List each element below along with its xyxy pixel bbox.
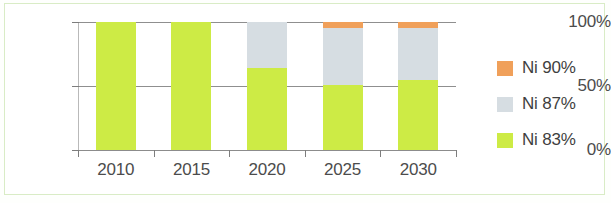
x-tick-2020: [229, 150, 230, 157]
legend-label-ni-90: Ni 90%: [522, 58, 576, 78]
legend-item-ni-83[interactable]: Ni 83%: [497, 122, 607, 158]
x-tick-2010: [78, 150, 79, 157]
x-tick-2015: [154, 150, 155, 157]
x-axis-label-2030: 2030: [380, 160, 456, 180]
legend-item-ni-87[interactable]: Ni 87%: [497, 86, 607, 122]
x-tick-2030: [380, 150, 381, 157]
legend-label-ni-87: Ni 87%: [522, 94, 576, 114]
bar-2020: [247, 22, 287, 150]
x-axis-label-2025: 2025: [305, 160, 381, 180]
bar-2010: [96, 22, 136, 150]
y-tick-50: [72, 86, 79, 87]
x-axis-line: [78, 150, 456, 151]
bar-segment-2025-ni-83: [323, 85, 363, 150]
bar-2030: [398, 22, 438, 150]
bar-segment-2025-ni-87: [323, 28, 363, 84]
x-axis-label-2010: 2010: [78, 160, 154, 180]
bar-segment-2010-ni-83: [96, 22, 136, 150]
chart-legend: Ni 90% Ni 87% Ni 83%: [497, 50, 607, 158]
legend-swatch-ni-90: [497, 61, 513, 76]
legend-swatch-ni-87: [497, 97, 513, 112]
legend-swatch-ni-83: [497, 133, 513, 148]
chart-screenshot: 100% 50% 0% 2010 2015 2020 2025 2030 Ni …: [0, 0, 611, 203]
x-axis-label-2015: 2015: [153, 160, 229, 180]
bar-2025: [323, 22, 363, 150]
legend-item-ni-90[interactable]: Ni 90%: [497, 50, 607, 86]
x-axis-label-2020: 2020: [229, 160, 305, 180]
bar-segment-2030-ni-90: [398, 22, 438, 28]
bar-segment-2015-ni-83: [171, 22, 211, 150]
x-tick-end: [456, 150, 457, 157]
bar-segment-2025-ni-90: [323, 22, 363, 28]
bar-segment-2020-ni-87: [247, 22, 287, 68]
y-tick-100: [72, 22, 79, 23]
bar-segment-2030-ni-87: [398, 28, 438, 79]
x-tick-2025: [305, 150, 306, 157]
bar-segment-2030-ni-83: [398, 80, 438, 150]
legend-label-ni-83: Ni 83%: [522, 130, 576, 150]
bar-segment-2020-ni-83: [247, 68, 287, 150]
y-axis-label-100: 100%: [545, 12, 611, 32]
bar-2015: [171, 22, 211, 150]
